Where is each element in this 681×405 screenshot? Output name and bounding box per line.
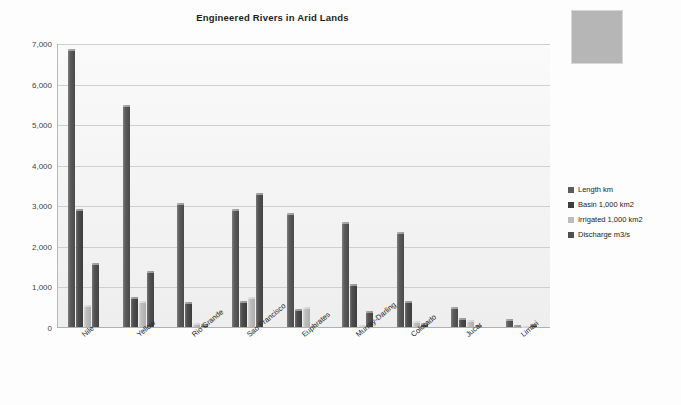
bar-group <box>287 43 318 327</box>
legend-swatch-icon <box>568 217 574 223</box>
image-placeholder <box>571 10 623 64</box>
bar-highlight <box>342 222 349 224</box>
bar[interactable] <box>76 209 83 327</box>
bar-highlight <box>303 307 310 309</box>
bar-highlight <box>506 319 513 321</box>
bar-group <box>123 43 154 327</box>
bar-highlight <box>295 309 302 311</box>
bar-highlight <box>147 271 154 273</box>
bar-highlight <box>256 193 263 195</box>
bar-highlight <box>248 297 255 299</box>
y-axis-tick-label: 3,000 <box>6 202 52 211</box>
bar-highlight <box>240 301 247 303</box>
bar-highlight <box>451 307 458 309</box>
bar[interactable] <box>123 105 130 327</box>
bar[interactable] <box>256 193 263 327</box>
y-axis-tick-label: 0 <box>6 324 52 333</box>
legend-label: Irrigated 1,000 km2 <box>578 215 643 224</box>
bar-highlight <box>76 209 83 211</box>
y-axis-tick-label: 1,000 <box>6 283 52 292</box>
bar[interactable] <box>342 222 349 327</box>
bar-highlight <box>131 297 138 299</box>
legend-item[interactable]: Basin 1,000 km2 <box>568 200 643 209</box>
plot-inner <box>58 44 550 327</box>
bar[interactable] <box>514 325 521 327</box>
y-axis: 01,0002,0003,0004,0005,0006,0007,000 <box>4 44 52 328</box>
plot-area <box>57 44 550 328</box>
bar[interactable] <box>397 232 404 327</box>
bar-group <box>506 43 537 327</box>
legend-label: Basin 1,000 km2 <box>578 200 634 209</box>
y-axis-tick-label: 5,000 <box>6 121 52 130</box>
bar-highlight <box>123 105 130 107</box>
bar-highlight <box>185 302 192 304</box>
chart-legend: Length kmBasin 1,000 km2Irrigated 1,000 … <box>568 185 643 245</box>
legend-swatch-icon <box>568 202 574 208</box>
bar-highlight <box>232 209 239 211</box>
bar-highlight <box>177 203 184 205</box>
bar-highlight <box>84 305 91 307</box>
legend-item[interactable]: Length km <box>568 185 643 194</box>
bar-group <box>451 43 482 327</box>
bar[interactable] <box>451 307 458 327</box>
bar[interactable] <box>287 213 294 327</box>
legend-label: Discharge m3/s <box>578 230 630 239</box>
bar[interactable] <box>405 301 412 327</box>
bar-highlight <box>405 301 412 303</box>
legend-item[interactable]: Irrigated 1,000 km2 <box>568 215 643 224</box>
bar[interactable] <box>232 209 239 327</box>
y-axis-tick-label: 7,000 <box>6 40 52 49</box>
bar[interactable] <box>506 319 513 327</box>
bar-highlight <box>287 213 294 215</box>
bar-highlight <box>350 284 357 286</box>
bar[interactable] <box>177 203 184 327</box>
bar-highlight <box>467 320 474 322</box>
bar-highlight <box>68 49 75 51</box>
legend-item[interactable]: Discharge m3/s <box>568 230 643 239</box>
bar[interactable] <box>295 309 302 327</box>
bar-highlight <box>397 232 404 234</box>
bar[interactable] <box>350 284 357 327</box>
legend-swatch-icon <box>568 187 574 193</box>
legend-label: Length km <box>578 185 613 194</box>
bar[interactable] <box>459 318 466 327</box>
bar-highlight <box>514 325 521 327</box>
bar-group <box>342 43 373 327</box>
bar-group <box>68 43 99 327</box>
bar-group <box>397 43 428 327</box>
bar-group <box>177 43 208 327</box>
bar-highlight <box>139 301 146 303</box>
bar-group <box>232 43 263 327</box>
bar-highlight <box>459 318 466 320</box>
bar-highlight <box>366 311 373 313</box>
bar[interactable] <box>185 302 192 327</box>
bar[interactable] <box>92 263 99 327</box>
bar[interactable] <box>240 301 247 327</box>
bar[interactable] <box>68 49 75 327</box>
bar-highlight <box>92 263 99 265</box>
chart-canvas: Engineered Rivers in Arid Lands 01,0002,… <box>0 0 681 405</box>
chart-title: Engineered Rivers in Arid Lands <box>0 12 545 23</box>
legend-swatch-icon <box>568 232 574 238</box>
bar[interactable] <box>131 297 138 327</box>
y-axis-tick-label: 2,000 <box>6 242 52 251</box>
y-axis-tick-label: 6,000 <box>6 80 52 89</box>
y-axis-tick-label: 4,000 <box>6 161 52 170</box>
